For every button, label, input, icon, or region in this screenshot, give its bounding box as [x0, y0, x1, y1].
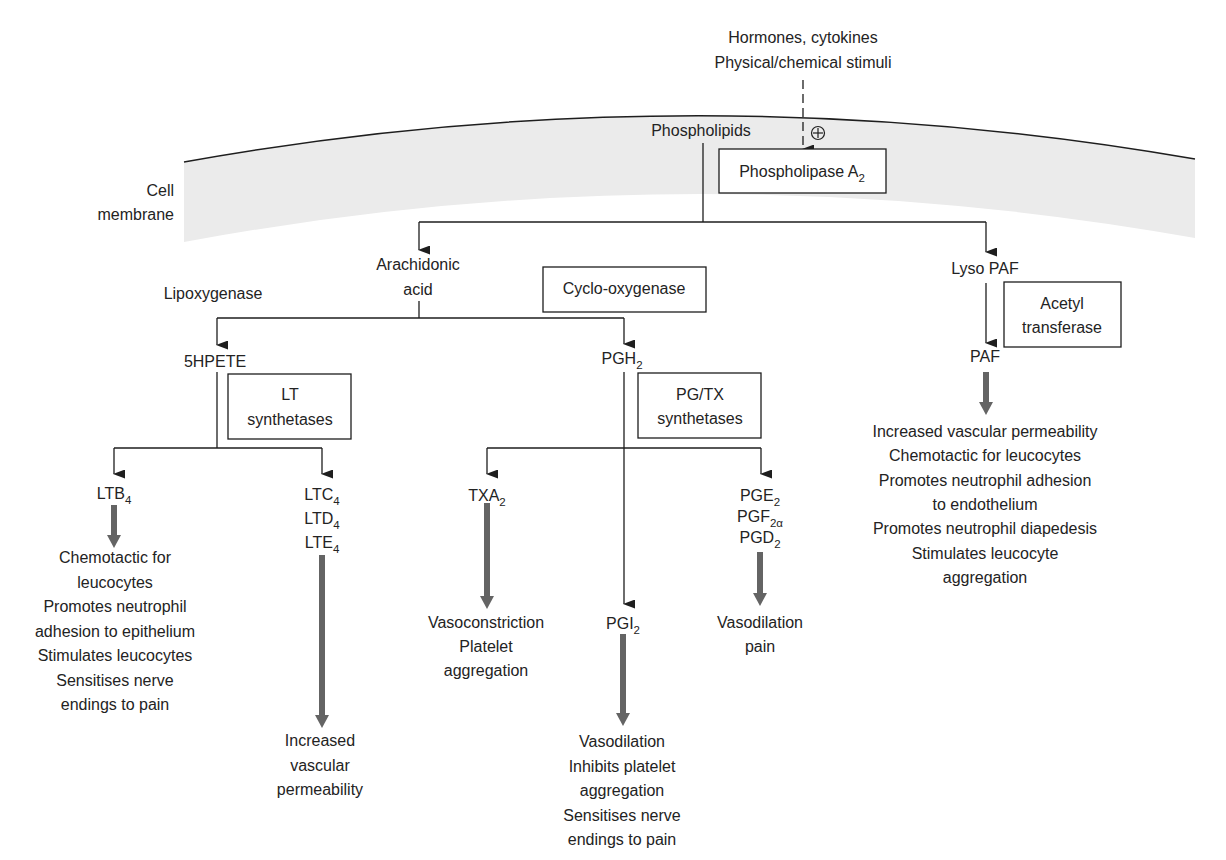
effect-line: aggregation: [580, 782, 665, 799]
stimuli-label-2: Physical/chemical stimuli: [715, 54, 892, 71]
pgi2-effects: VasodilationInhibits plateletaggregation…: [563, 733, 680, 848]
effect-line: leucocytes: [77, 574, 153, 591]
effect-line: Sensitises nerve: [56, 672, 173, 689]
cyclooxygenase-label: Cyclo-oxygenase: [563, 280, 686, 297]
effect-line: Increased: [285, 732, 355, 749]
arachidonic-acid-label-1: Arachidonic: [376, 256, 460, 273]
lt-synthetases-label-2: synthetases: [247, 411, 332, 428]
lt-synthetases-box: [228, 374, 351, 439]
effect-line: Chemotactic for leucocytes: [889, 447, 1081, 464]
phospholipids-label: Phospholipids: [651, 122, 751, 139]
acetyl-transferase-label-1: Acetyl: [1040, 295, 1084, 312]
stimuli-label-1: Hormones, cytokines: [728, 29, 877, 46]
effect-line: adhesion to epithelium: [35, 623, 195, 640]
effect-line: permeability: [277, 781, 363, 798]
pge-effects: Vasodilationpain: [717, 614, 803, 655]
effect-line: to endothelium: [933, 496, 1038, 513]
pge2-label: PGE2: [740, 487, 780, 508]
effect-line: Sensitises nerve: [563, 807, 680, 824]
lt-synthetases-label-1: LT: [281, 386, 299, 403]
ltc-effect-arrow: [315, 555, 329, 728]
acetyl-transferase-label-2: transferase: [1022, 319, 1102, 336]
effect-line: vascular: [290, 757, 350, 774]
paf-effects: Increased vascular permeabilityChemotact…: [873, 423, 1098, 586]
ltd4-label: LTD4: [304, 510, 340, 531]
effect-line: Chemotactic for: [59, 549, 172, 566]
pgi2-effect-arrow: [616, 634, 630, 726]
pgd2-label: PGD2: [739, 529, 780, 550]
5hpete-label: 5HPETE: [184, 353, 246, 370]
effect-line: aggregation: [444, 662, 529, 679]
effect-line: Promotes neutrophil: [43, 598, 186, 615]
effect-line: endings to pain: [568, 831, 677, 848]
cell-membrane-label-1: Cell: [146, 182, 174, 199]
effect-line: Stimulates leucocyte: [912, 545, 1059, 562]
txa2-effects: VasoconstrictionPlateletaggregation: [428, 614, 544, 679]
paf-effect-arrow: [979, 372, 993, 415]
txa2-effect-arrow: [480, 503, 494, 609]
effect-line: Vasoconstriction: [428, 614, 544, 631]
lte4-label: LTE4: [305, 534, 340, 555]
ltb4-label: LTB4: [97, 485, 132, 506]
effect-line: Vasodilation: [579, 733, 665, 750]
pgi2-label: PGI2: [606, 615, 640, 636]
effect-line: Promotes neutrophil adhesion: [879, 472, 1092, 489]
pgh2-label: PGH2: [601, 350, 642, 371]
ltc4-label: LTC4: [304, 486, 340, 507]
cell-membrane-label-2: membrane: [98, 206, 175, 223]
paf-label: PAF: [970, 348, 1000, 365]
plus-circle-icon: [812, 127, 825, 140]
effect-line: Stimulates leucocytes: [38, 647, 193, 664]
lyso-paf-label: Lyso PAF: [951, 260, 1019, 277]
effect-line: Increased vascular permeability: [873, 423, 1098, 440]
ltb4-effects: Chemotactic forleucocytesPromotes neutro…: [35, 549, 195, 713]
effect-line: Inhibits platelet: [569, 758, 676, 775]
lipoxygenase-label: Lipoxygenase: [164, 285, 263, 302]
pge-effect-arrow: [753, 552, 767, 606]
pgf2a-label: PGF2α: [737, 508, 783, 529]
effect-line: aggregation: [943, 569, 1028, 586]
arachidonic-acid-label-2: acid: [403, 281, 432, 298]
pgtx-synthetases-box: [638, 373, 761, 438]
effect-line: endings to pain: [61, 696, 170, 713]
acetyl-transferase-box: [1004, 282, 1121, 347]
pgtx-synthetases-label-1: PG/TX: [676, 386, 724, 403]
effect-line: Vasodilation: [717, 614, 803, 631]
pgtx-synthetases-label-2: synthetases: [657, 410, 742, 427]
ltb4-effect-arrow: [107, 505, 121, 548]
effect-line: Promotes neutrophil diapedesis: [873, 520, 1097, 537]
inflammatory-mediator-pathway-diagram: Hormones, cytokines Physical/chemical st…: [0, 0, 1226, 860]
effect-line: pain: [745, 638, 775, 655]
effect-line: Platelet: [459, 638, 513, 655]
ltc-effects: Increasedvascularpermeability: [277, 732, 363, 798]
